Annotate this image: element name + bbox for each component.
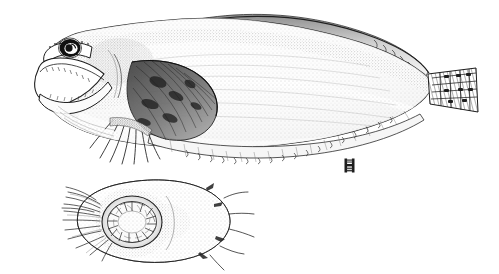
illustration-canvas — [0, 0, 499, 274]
eye — [59, 38, 82, 58]
illustration-plate — [0, 0, 499, 274]
artist-monogram — [344, 158, 355, 173]
caudal-fin — [428, 68, 478, 112]
sucking-disc — [102, 196, 162, 248]
